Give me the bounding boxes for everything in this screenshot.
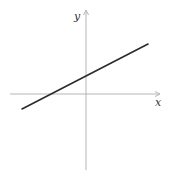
y-axis-label: y xyxy=(73,10,81,23)
line-graph-figure: x y xyxy=(0,0,174,179)
plotted-line xyxy=(22,44,148,109)
x-axis-label: x xyxy=(155,96,162,109)
coordinate-plane: x y xyxy=(0,0,174,179)
